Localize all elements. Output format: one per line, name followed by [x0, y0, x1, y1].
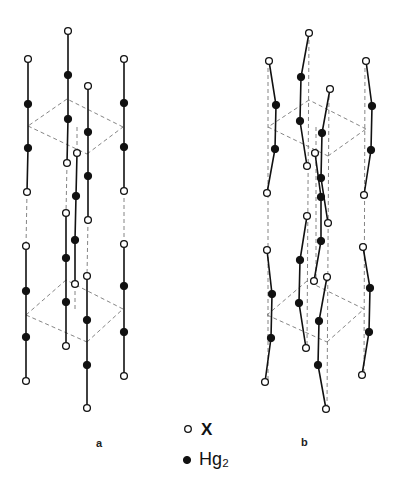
hg2x2-chain-bond	[67, 31, 68, 163]
hg-atom-icon	[62, 254, 69, 261]
hg-atom-icon	[365, 328, 372, 335]
hg-atom-icon	[296, 117, 303, 124]
hg-atom-icon	[367, 146, 374, 153]
unit-cell-edge	[66, 163, 67, 213]
legend-label-hg2: Hg₂	[199, 449, 229, 470]
hg-atom-icon	[62, 298, 69, 305]
x-atom-icon	[324, 274, 331, 281]
x-atom-icon	[121, 56, 128, 63]
x-atom-icon	[23, 378, 30, 385]
hg-atom-icon	[318, 129, 325, 136]
x-atom-icon	[304, 163, 311, 170]
hg-atom-icon	[297, 73, 304, 80]
unit-cell-edge	[307, 281, 364, 309]
hg-atom-icon	[64, 115, 71, 122]
x-atom-icon	[262, 379, 269, 386]
x-atom-icon	[65, 28, 72, 35]
hg-atom-icon	[317, 193, 324, 200]
x-atom-icon	[85, 83, 92, 90]
x-atom-icon	[23, 243, 30, 250]
x-atom-icon	[303, 345, 310, 352]
x-atom-icon	[266, 58, 273, 65]
unit-cell-edge	[328, 129, 366, 156]
structure-a	[22, 28, 127, 412]
structure-diagram	[0, 0, 395, 498]
hg-atom-icon	[120, 99, 127, 106]
x-atom-icon	[121, 188, 128, 195]
hg-atom-icon	[22, 333, 29, 340]
hg-atom-icon	[317, 237, 324, 244]
x-atom-icon	[363, 58, 370, 65]
x-atom-icon	[74, 150, 81, 157]
x-atom-icon	[327, 86, 334, 93]
hg-atom-icon	[366, 284, 373, 291]
hg-atom-icon	[267, 334, 274, 341]
legend-filled-circle-icon	[183, 456, 190, 463]
x-atom-icon	[264, 247, 271, 254]
hg-atom-icon	[84, 172, 91, 179]
hg2x2-chain-bond	[314, 153, 321, 281]
x-atom-icon	[360, 244, 367, 251]
x-atom-icon	[64, 160, 71, 167]
hg-atom-icon	[22, 287, 29, 294]
hg-atom-icon	[83, 361, 90, 368]
x-atom-icon	[63, 210, 70, 217]
x-atom-icon	[359, 372, 366, 379]
unit-cell-edge	[364, 61, 365, 375]
hg-atom-icon	[268, 290, 275, 297]
structure-b	[262, 30, 376, 413]
hg2x2-chain-bond	[27, 59, 28, 192]
unit-cell-edge	[87, 220, 88, 276]
legend-open-circle-icon	[185, 426, 192, 433]
x-atom-icon	[304, 213, 311, 220]
panel-label-a: a	[96, 437, 102, 449]
hg-atom-icon	[72, 192, 79, 199]
x-atom-icon	[264, 190, 271, 197]
x-atom-icon	[323, 406, 330, 413]
hg-atom-icon	[368, 102, 375, 109]
hg2x2-chain-bond	[75, 153, 77, 284]
x-atom-icon	[306, 30, 313, 37]
x-atom-icon	[84, 405, 91, 412]
unit-cell-edge	[28, 99, 67, 126]
unit-cell-edge	[26, 280, 66, 315]
x-atom-icon	[84, 273, 91, 280]
x-atom-icon	[325, 220, 332, 227]
legend-symbols	[183, 426, 191, 464]
x-atom-icon	[311, 278, 318, 285]
legend-label-x: X	[201, 420, 212, 440]
hg-atom-icon	[24, 100, 31, 107]
x-atom-icon	[85, 217, 92, 224]
hg-atom-icon	[24, 144, 31, 151]
unit-cell-edge	[87, 309, 123, 342]
hg2x2-chain-bond	[318, 277, 327, 409]
unit-cell-edge	[309, 100, 366, 129]
hg-atom-icon	[314, 361, 321, 368]
hg-atom-icon	[64, 71, 71, 78]
unit-cell-edge	[327, 89, 329, 409]
x-atom-icon	[25, 56, 32, 63]
hg-atom-icon	[120, 282, 127, 289]
hg-atom-icon	[315, 317, 322, 324]
x-atom-icon	[121, 241, 128, 248]
hg-atom-icon	[83, 316, 90, 323]
hg-atom-icon	[271, 145, 278, 152]
hg2x2-chain-bond	[362, 247, 370, 375]
hg-atom-icon	[120, 328, 127, 335]
hg-atom-icon	[120, 143, 127, 150]
x-atom-icon	[63, 343, 70, 350]
x-atom-icon	[121, 373, 128, 380]
x-atom-icon	[72, 281, 79, 288]
hg-atom-icon	[272, 101, 279, 108]
unit-cell-edge	[67, 99, 123, 127]
crystal-structure-figure: a b X Hg₂	[0, 0, 395, 498]
hg-atom-icon	[295, 299, 302, 306]
unit-cell-edge	[26, 315, 87, 342]
panel-label-b: b	[301, 436, 308, 448]
unit-cell-edge	[87, 127, 123, 154]
hg-atom-icon	[296, 256, 303, 263]
x-atom-icon	[312, 150, 319, 157]
hg-atom-icon	[84, 128, 91, 135]
unit-cell-edge	[307, 33, 309, 348]
unit-cell-edge	[26, 192, 27, 246]
